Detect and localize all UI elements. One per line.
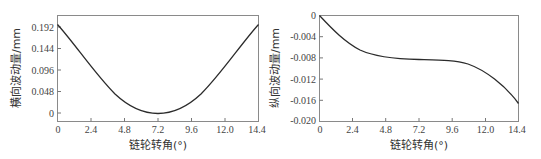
left-x-axis-label: 链轮转角(°) [129,138,187,152]
left-x-tick-label: 12.0 [216,124,234,135]
right-y-tick-label: -0.016 [290,95,316,106]
left-x-tick-label: 7.2 [152,124,165,135]
left-plot-frame [58,16,259,122]
right-y-tick-label: -0.020 [290,115,316,126]
left-y-tick-label: 0.144 [32,43,55,54]
right-x-tick-label: 4.8 [379,124,392,135]
left-y-tick-label: 0.048 [32,86,55,97]
left-chart: 0.192 0.144 0.096 0.048 0 0 2.4 4.8 7.2 … [9,16,266,153]
left-x-tick-label: 4.8 [118,124,131,135]
right-y-tick-label: -0.004 [290,31,316,42]
right-y-axis-label: 纵向波动量/mm [268,28,282,108]
left-y-tick-label: 0 [49,108,54,119]
right-chart: 0 -0.004 -0.008 -0.012 -0.016 -0.020 0 2… [268,10,526,152]
right-x-tick-label: 12.0 [477,124,495,135]
right-series-line [320,16,519,104]
left-x-tick-label: 9.6 [185,124,198,135]
right-x-ticks: 0 2.4 4.8 7.2 9.6 12.0 14.4 [318,118,526,135]
left-x-tick-label: 0 [56,124,61,135]
right-plot-frame [320,16,519,122]
right-x-tick-label: 9.6 [446,124,459,135]
left-x-tick-label: 2.4 [85,124,98,135]
left-series-line [58,25,259,114]
right-x-tick-label: 0 [318,124,323,135]
right-y-ticks: 0 -0.004 -0.008 -0.012 -0.016 -0.020 [290,10,323,126]
left-y-tick-label: 0.192 [32,22,55,33]
left-y-tick-label: 0.096 [32,65,55,76]
figure: 0.192 0.144 0.096 0.048 0 0 2.4 4.8 7.2 … [0,0,541,159]
right-x-tick-label: 14.4 [508,124,526,135]
left-y-ticks: 0.192 0.144 0.096 0.048 0 [32,22,62,119]
right-y-tick-label: -0.012 [290,74,316,85]
right-x-tick-label: 7.2 [413,124,426,135]
right-y-tick-label: 0 [311,10,316,21]
left-x-ticks: 0 2.4 4.8 7.2 9.6 12.0 14.4 [56,118,266,135]
left-x-tick-label: 14.4 [248,124,266,135]
right-x-tick-label: 2.4 [346,124,359,135]
right-x-axis-label: 链轮转角(°) [390,138,448,152]
left-y-axis-label: 横向波动量/mm [9,28,23,108]
right-y-tick-label: -0.008 [290,52,316,63]
